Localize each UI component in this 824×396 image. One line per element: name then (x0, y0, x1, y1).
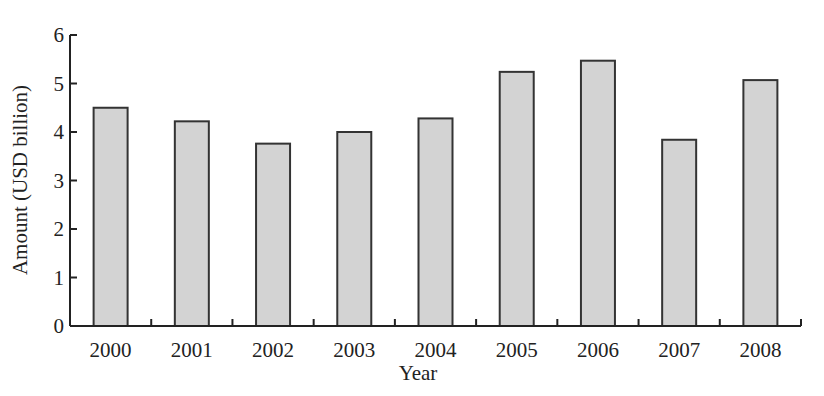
bar-2000 (94, 108, 128, 326)
bar-chart: 0123456 20002001200220032004200520062007… (0, 0, 824, 396)
bar-2001 (175, 121, 209, 326)
x-tick-label: 2006 (577, 338, 619, 362)
x-tick-label: 2000 (90, 338, 132, 362)
x-tick-label: 2008 (739, 338, 781, 362)
bar-2003 (337, 132, 371, 326)
y-tick-label: 1 (54, 266, 65, 290)
y-tick-label: 2 (54, 217, 65, 241)
y-tick-label: 4 (54, 120, 65, 144)
x-axis-title: Year (399, 361, 438, 385)
x-tick-label: 2002 (252, 338, 294, 362)
bar-2005 (500, 72, 534, 326)
bar-2007 (662, 140, 696, 326)
y-axis: 0123456 (54, 23, 78, 338)
x-tick-label: 2003 (333, 338, 375, 362)
y-tick-label: 6 (54, 23, 65, 47)
y-tick-label: 0 (54, 314, 65, 338)
y-axis-title: Amount (USD billion) (8, 85, 32, 275)
y-tick-label: 3 (54, 169, 65, 193)
x-tick-label: 2007 (658, 338, 700, 362)
y-tick-label: 5 (54, 72, 65, 96)
x-tick-label: 2001 (171, 338, 213, 362)
x-tick-label: 2005 (496, 338, 538, 362)
bar-2006 (581, 61, 615, 326)
bar-2004 (419, 118, 453, 326)
x-tick-label: 2004 (415, 338, 458, 362)
bar-2008 (743, 80, 777, 326)
bars-group (94, 61, 778, 326)
x-axis: 200020012002200320042005200620072008 (70, 319, 801, 362)
bar-2002 (256, 144, 290, 326)
